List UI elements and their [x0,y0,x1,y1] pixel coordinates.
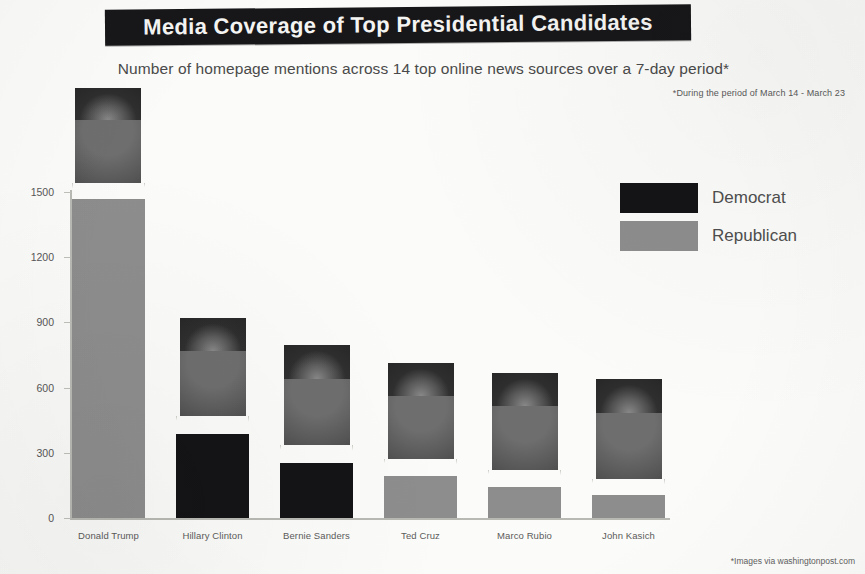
photo-bar-connector [384,459,457,476]
bar-john-kasich[interactable] [592,495,665,518]
x-axis-label-ted-cruz: Ted Cruz [372,530,469,541]
photo-bar-connector [176,416,249,434]
candidate-photo-bernie-sanders [284,345,350,445]
x-axis-label-bernie-sanders: Bernie Sanders [268,530,365,541]
chart-legend: DemocratRepublican [620,183,860,259]
x-axis-label-marco-rubio: Marco Rubio [476,530,573,541]
y-axis-tick-mark [64,257,71,258]
y-axis-tick-label: 0 [10,512,54,524]
x-axis-label-donald-trump: Donald Trump [60,530,157,541]
y-axis-tick-label: 300 [10,447,54,459]
candidate-photo-hillary-clinton [180,318,246,416]
candidate-photo-john-kasich [596,379,662,479]
photo-vignette [75,88,141,183]
photo-bar-connector [592,479,665,495]
y-axis-tick-label: 1200 [10,251,54,263]
candidate-photo-marco-rubio [492,373,558,470]
legend-swatch-democrat [620,183,698,213]
photo-bar-connector [280,445,353,463]
photo-bar-connector [72,183,145,199]
photo-vignette [284,345,350,445]
chart-plot-area: 150012009006003000 Donald TrumpHillary C… [0,0,865,574]
x-axis-label-hillary-clinton: Hillary Clinton [164,530,261,541]
photo-vignette [492,373,558,470]
candidate-photo-donald-trump [75,88,141,183]
legend-item-republican[interactable]: Republican [620,221,860,251]
x-axis-label-john-kasich: John Kasich [580,530,677,541]
photo-vignette [180,318,246,416]
legend-swatch-republican [620,221,698,251]
bar-hillary-clinton[interactable] [176,434,249,518]
bar-marco-rubio[interactable] [488,487,561,519]
bar-ted-cruz[interactable] [384,476,457,518]
photo-vignette [596,379,662,479]
y-axis-tick-label: 600 [10,382,54,394]
y-axis-tick-mark [64,453,71,454]
y-axis-tick-mark [64,192,71,193]
x-axis-line [70,518,670,520]
photo-bar-connector [488,470,561,486]
bar-donald-trump[interactable] [72,199,145,518]
y-axis-tick-mark [64,518,71,519]
candidate-photo-ted-cruz [388,363,454,459]
legend-label-democrat: Democrat [712,188,786,208]
y-axis-tick-label: 1500 [10,186,54,198]
photo-vignette [388,363,454,459]
y-axis-tick-mark [64,322,71,323]
bar-bernie-sanders[interactable] [280,463,353,518]
legend-label-republican: Republican [712,226,797,246]
legend-item-democrat[interactable]: Democrat [620,183,860,213]
y-axis-tick-mark [64,388,71,389]
y-axis-tick-label: 900 [10,316,54,328]
